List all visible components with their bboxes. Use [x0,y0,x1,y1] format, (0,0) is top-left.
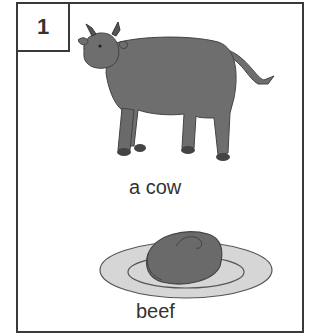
beef-steak-icon [96,224,276,304]
cow-icon [78,18,278,168]
card-number: 1 [18,4,70,52]
beef-label: beef [136,300,175,323]
cow-label: a cow [129,176,181,199]
vocabulary-card: 1 a cow beef [16,2,304,333]
